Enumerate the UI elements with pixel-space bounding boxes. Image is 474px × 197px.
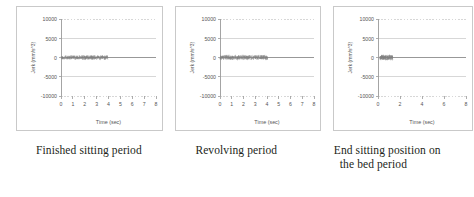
y-tick-label: -5000 (44, 74, 57, 80)
x-axis-title: Time (sec) (96, 119, 121, 125)
y-axis-title: Jerk (mm/s^3) (189, 41, 195, 73)
x-tick-label: 4 (266, 101, 269, 107)
y-tick-label: -10000 (358, 93, 374, 99)
x-tick-label: 4 (421, 101, 424, 107)
x-tick-label: 0 (377, 101, 380, 107)
x-tick-label: 7 (143, 101, 146, 107)
x-tick-label: 3 (95, 101, 98, 107)
x-tick-label: 6 (131, 101, 134, 107)
data-series-jerk (61, 55, 156, 60)
x-tick-label: 2 (242, 101, 245, 107)
y-tick-label: 10000 (360, 16, 375, 22)
y-tick-label: 10000 (202, 16, 217, 22)
chart-plot-area-3: -10000-5000050001000002468Time (sec)Jerk… (334, 7, 472, 130)
chart-panel-finished-sitting: -10000-50000500010000012345678Time (sec)… (16, 6, 163, 131)
x-axis-title: Time (sec) (409, 119, 434, 125)
chart-plot-area-2: -10000-50000500010000012345678Time (sec)… (176, 7, 320, 130)
x-tick-label: 1 (71, 101, 74, 107)
y-tick-label: 0 (371, 55, 374, 61)
y-tick-label: -10000 (41, 93, 57, 99)
y-tick-label: 0 (54, 55, 57, 61)
x-tick-label: 6 (289, 101, 292, 107)
caption-panel-3: End sitting position on the bed period (330, 133, 474, 171)
x-tick-label: 5 (277, 101, 280, 107)
chart-panel-end-sitting: -10000-5000050001000002468Time (sec)Jerk… (333, 6, 473, 131)
caption-row: Finished sitting period Revolving period… (0, 133, 474, 171)
chart-plot-area-1: -10000-50000500010000012345678Time (sec)… (17, 7, 162, 130)
x-tick-label: 1 (230, 101, 233, 107)
caption-panel-1-line1: Finished sitting period (36, 144, 142, 156)
x-tick-label: 8 (313, 101, 316, 107)
chart-panel-revolving: -10000-50000500010000012345678Time (sec)… (175, 6, 321, 131)
y-tick-label: -5000 (361, 74, 374, 80)
y-axis-title: Jerk (mm/s^3) (347, 41, 353, 73)
x-tick-label: 0 (219, 101, 222, 107)
data-series-jerk (220, 55, 314, 61)
x-tick-label: 8 (465, 101, 468, 107)
jerk-time-chart-1: -10000-50000500010000012345678Time (sec)… (17, 7, 162, 130)
plot-panel-row: -10000-50000500010000012345678Time (sec)… (0, 0, 474, 133)
caption-panel-3-line1: End sitting position on (334, 144, 441, 156)
y-tick-label: -10000 (200, 93, 216, 99)
y-tick-label: 5000 (362, 36, 374, 42)
x-tick-label: 8 (155, 101, 158, 107)
jerk-time-chart-3: -10000-5000050001000002468Time (sec)Jerk… (334, 7, 472, 130)
y-tick-label: 5000 (204, 36, 216, 42)
x-tick-label: 4 (107, 101, 110, 107)
x-tick-label: 2 (83, 101, 86, 107)
x-tick-label: 7 (301, 101, 304, 107)
x-axis-title: Time (sec) (254, 119, 279, 125)
x-tick-label: 0 (60, 101, 63, 107)
caption-panel-3-line2: the bed period (334, 157, 474, 171)
caption-panel-2-line1: Revolving period (195, 144, 277, 156)
y-tick-label: 10000 (43, 16, 58, 22)
x-tick-label: 5 (119, 101, 122, 107)
y-tick-label: 0 (213, 55, 216, 61)
figure-three-jerk-plots: -10000-50000500010000012345678Time (sec)… (0, 0, 474, 197)
y-tick-label: 5000 (45, 36, 57, 42)
caption-panel-2: Revolving period (173, 133, 317, 157)
x-tick-label: 3 (254, 101, 257, 107)
caption-panel-1: Finished sitting period (16, 133, 161, 157)
x-tick-label: 6 (443, 101, 446, 107)
y-tick-label: -5000 (203, 74, 216, 80)
x-tick-label: 2 (399, 101, 402, 107)
jerk-time-chart-2: -10000-50000500010000012345678Time (sec)… (176, 7, 320, 130)
y-axis-title: Jerk (mm/s^3) (30, 41, 36, 73)
data-series-jerk (380, 55, 466, 61)
